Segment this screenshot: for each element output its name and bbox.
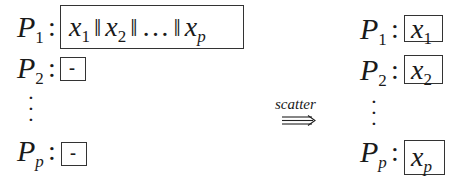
chunk-xp: xp — [411, 143, 432, 181]
process-label-p1-before: P1 — [17, 12, 44, 53]
colon: : — [48, 137, 56, 165]
concatenated-array: x1‖x2‖…‖xp — [69, 13, 206, 51]
scatter-label: scatter — [275, 96, 316, 113]
vertical-ellipsis: ··· — [26, 92, 36, 125]
empty-marker: - — [70, 146, 76, 160]
process-label-p1-after: P1 — [360, 14, 387, 55]
pp-empty-box: - — [61, 142, 87, 166]
double-right-arrow-icon — [282, 115, 316, 126]
colon: : — [48, 54, 56, 82]
colon: : — [391, 56, 399, 84]
chunk-x2: x2 — [411, 56, 432, 94]
empty-marker: - — [69, 61, 75, 75]
colon: : — [48, 13, 56, 41]
vertical-ellipsis: ··· — [369, 96, 379, 129]
pp-chunk-box: xp — [404, 140, 445, 175]
process-label-pp-after: Pp — [360, 137, 387, 178]
chunk-x1: x1 — [411, 15, 432, 53]
p1-chunk-box: x1 — [404, 15, 443, 42]
colon: : — [391, 15, 399, 43]
p2-chunk-box: x2 — [404, 55, 443, 84]
p2-empty-box: - — [60, 57, 86, 81]
colon: : — [391, 138, 399, 166]
p1-full-array-box: x1‖x2‖…‖xp — [60, 5, 244, 49]
process-label-pp-before: Pp — [17, 136, 44, 177]
